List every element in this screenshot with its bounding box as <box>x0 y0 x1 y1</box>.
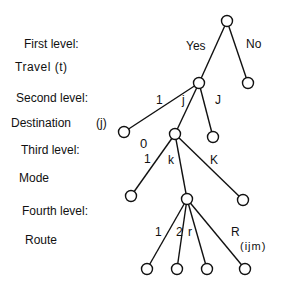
node-travel-no <box>243 78 254 89</box>
destination-index: (j) <box>96 116 107 130</box>
edge-label-mode-0: 0 <box>140 136 147 151</box>
node-route-r <box>202 264 213 275</box>
edge-label-route-r: r <box>188 225 192 239</box>
edge-label-mode-1: 1 <box>144 152 151 166</box>
edge-label-yes: Yes <box>186 39 206 53</box>
edge-no <box>227 21 248 83</box>
edge-label-mode-K: K <box>210 153 218 167</box>
node-mode-1 <box>126 191 137 202</box>
node-mode-k <box>182 194 193 205</box>
node-mode-K <box>238 195 249 206</box>
second-level-heading: Second level: <box>16 91 88 105</box>
edge-label-route-2: 2 <box>176 225 183 239</box>
destination-label: Destination <box>11 116 71 130</box>
edge-label-dest-j: j <box>182 93 185 107</box>
edge-label-route-subscript: (ijm) <box>240 240 266 252</box>
node-route-R <box>240 264 251 275</box>
node-dest-J <box>208 132 219 143</box>
node-travel-yes <box>194 78 205 89</box>
edge-label-route-1: 1 <box>155 225 162 239</box>
node-route-1 <box>142 264 153 275</box>
edge-label-no: No <box>246 37 261 51</box>
node-root <box>222 16 233 27</box>
route-label: Route <box>25 233 57 247</box>
edge-label-dest-J: J <box>215 93 221 107</box>
node-dest-j <box>170 129 181 140</box>
edge-dest-J <box>199 83 213 137</box>
edge-label-mode-k: k <box>168 153 174 167</box>
travel-label: Travel (t) <box>15 60 68 74</box>
fourth-level-heading: Fourth level: <box>22 204 88 218</box>
third-level-heading: Third level: <box>21 143 80 157</box>
node-dest-1 <box>119 127 130 138</box>
node-route-2 <box>172 264 183 275</box>
edge-label-dest-1: 1 <box>156 93 163 107</box>
mode-label: Mode <box>19 171 49 185</box>
edge-label-route-R: R <box>231 225 240 239</box>
first-level-heading: First level: <box>24 37 79 51</box>
